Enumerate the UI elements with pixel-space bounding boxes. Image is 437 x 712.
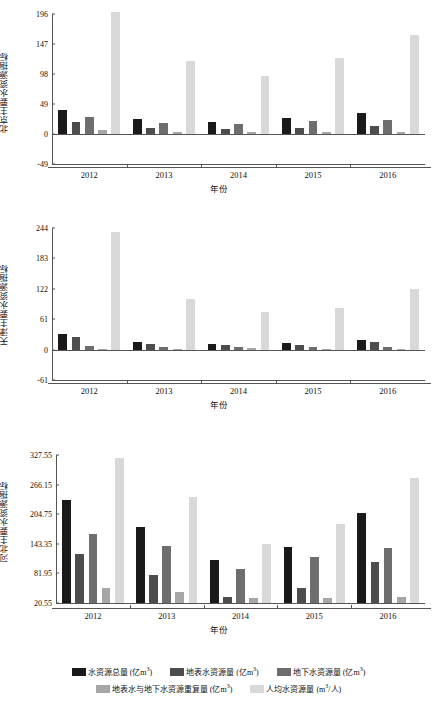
legend-label: 地表水资源量 (亿m3)	[186, 668, 259, 677]
bar	[261, 312, 270, 350]
bar	[111, 12, 120, 134]
bar	[102, 588, 111, 603]
y-axis-tick-label: 98	[40, 70, 52, 79]
x-axis-tick-label: 2014	[230, 386, 247, 396]
bar	[98, 130, 107, 134]
y-axis-title-hebei: 河北主要水资源指标	[0, 447, 14, 597]
bar	[221, 345, 230, 350]
y-axis-tick-label: 196	[36, 10, 52, 19]
bar-group	[127, 228, 202, 380]
bar-group	[201, 14, 276, 164]
bar	[310, 557, 319, 603]
x-axis-tick-label: 2014	[230, 170, 247, 180]
bar	[146, 344, 155, 350]
legend-swatch-icon	[96, 685, 110, 693]
bar	[397, 349, 406, 350]
bar	[85, 346, 94, 349]
x-axis-title: 年份	[0, 182, 437, 194]
y-axis-tick-label: 122	[36, 284, 52, 293]
legend-item-surface[interactable]: 地表水资源量 (亿m3)	[170, 662, 259, 680]
x-axis-tick-label: 2012	[81, 170, 98, 180]
y-axis-tick-label: 204.75	[30, 510, 56, 519]
bar	[335, 58, 344, 134]
x-axis-line	[52, 380, 425, 381]
bar-group	[351, 455, 425, 603]
bar	[322, 349, 331, 350]
legend-item-ground[interactable]: 地下水资源量 (亿m3)	[277, 662, 366, 680]
x-axis-tick-label: 2014	[232, 611, 249, 621]
bar	[247, 132, 256, 134]
bar	[309, 121, 318, 134]
bar	[208, 122, 217, 134]
bar	[115, 458, 124, 603]
legend-label: 地表水与地下水资源重复量 (亿m3)	[112, 685, 233, 694]
bar	[136, 527, 145, 603]
bar	[89, 534, 98, 603]
y-axis-tick-label: 183	[36, 254, 52, 263]
bar-group	[276, 228, 351, 380]
bar	[370, 126, 379, 134]
bar	[261, 76, 270, 134]
bar	[173, 132, 182, 134]
legend-item-overlap[interactable]: 地表水与地下水资源重复量 (亿m3)	[96, 680, 233, 698]
bar	[159, 123, 168, 134]
x-axis-tick-label: 2012	[81, 386, 98, 396]
bar	[383, 347, 392, 350]
bar	[186, 299, 195, 350]
bar	[234, 347, 243, 349]
bar-group	[130, 455, 204, 603]
bar	[370, 342, 379, 349]
bar	[397, 132, 406, 134]
bar	[133, 119, 142, 134]
bar	[282, 343, 291, 349]
bar	[322, 132, 331, 134]
x-axis-tick-label: 2016	[379, 386, 396, 396]
bar-group	[350, 228, 425, 380]
bar	[189, 497, 198, 603]
y-axis-title-tianjin: 天津主要水资源指标	[0, 230, 14, 380]
y-axis-tick-label: 266.15	[30, 480, 56, 489]
bar	[357, 340, 366, 349]
legend-item-percapita[interactable]: 人均水资源量 (m3/人)	[250, 680, 341, 698]
bar	[262, 544, 271, 604]
x-axis-band: 20122013201420152016	[0, 168, 437, 182]
bar	[72, 122, 81, 134]
x-axis-tick-label: 2015	[306, 611, 323, 621]
legend: 水资源总量 (亿m3)地表水资源量 (亿m3)地下水资源量 (亿m3)地表水与地…	[0, 662, 437, 697]
legend-swatch-icon	[72, 668, 86, 676]
x-axis-tick-label: 2013	[155, 386, 172, 396]
chart-panel-beijing: 北京主要水资源指标 19614798490-49 201220132014201…	[0, 0, 437, 212]
bar	[208, 344, 217, 350]
bar	[410, 289, 419, 350]
plot-area-beijing: 19614798490-49	[52, 14, 425, 164]
plot-area-hebei: 327.55266.15204.75143.3581.9520.55	[56, 455, 425, 603]
bar	[357, 113, 366, 134]
y-axis-title-beijing: 北京主要水资源指标	[0, 18, 14, 168]
bar	[247, 348, 256, 349]
x-axis-tick-label: 2016	[380, 611, 397, 621]
legend-label: 水资源总量 (亿m3)	[88, 668, 153, 677]
bar	[383, 120, 392, 135]
legend-item-total[interactable]: 水资源总量 (亿m3)	[72, 662, 153, 680]
bar	[236, 569, 245, 603]
bar	[223, 597, 232, 603]
bar	[149, 575, 158, 604]
x-axis-rule	[48, 167, 431, 168]
plot-area-tianjin: 244183122610-61	[52, 228, 425, 380]
bar	[75, 554, 84, 603]
bar	[410, 478, 419, 603]
bar	[323, 598, 332, 603]
bar	[234, 124, 243, 134]
legend-row: 水资源总量 (亿m3)地表水资源量 (亿m3)地下水资源量 (亿m3)	[0, 662, 437, 680]
x-axis-title: 年份	[0, 623, 437, 635]
bar-group	[52, 228, 127, 380]
bar	[62, 500, 71, 603]
x-axis-tick-label: 2013	[158, 611, 175, 621]
bar	[72, 337, 81, 350]
bar	[186, 61, 195, 134]
y-axis-tick-label: 244	[36, 224, 52, 233]
bar	[133, 342, 142, 349]
bar-group	[276, 14, 351, 164]
bar	[297, 588, 306, 603]
bar	[175, 592, 184, 603]
